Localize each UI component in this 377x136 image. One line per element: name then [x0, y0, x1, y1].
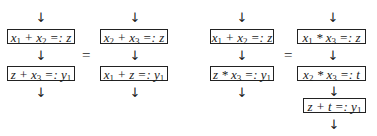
diagram2-right-box-1: x1 * x3 =: z	[297, 29, 366, 44]
diagram1-left-arrow-1: ↓	[35, 49, 47, 62]
diagram2-right-arrow-in: ↓	[327, 11, 339, 24]
diagram1-left-box-1: x1 + x2 =: z	[7, 29, 75, 44]
diagram1-right-box-1: x2 + x3 =: z	[100, 29, 168, 44]
diagram1-right-arrow-out: ↓	[129, 86, 141, 99]
diagram1-left-arrow-in: ↓	[35, 11, 47, 24]
diagram2-left-box-1: x1 + x2 =: z	[210, 29, 274, 44]
diagram2-left-arrow-1: ↓	[236, 49, 248, 62]
diagram2-right-arrow-2: ↓	[328, 85, 340, 98]
diagram1-left-box-2: z + x3 =: y1	[7, 66, 75, 81]
diagram2-right-arrow-out: ↓	[328, 118, 340, 131]
diagram2-left-box-2: z * x3 =: y1	[210, 66, 274, 81]
diagram2-left-arrow-out: ↓	[236, 86, 248, 99]
diagram2-right-box-2: x2 * x3 =: t	[297, 66, 366, 81]
diagram1-right-arrow-1: ↓	[129, 49, 141, 62]
diagram2-equals-sign: =	[284, 48, 292, 63]
diagram2-right-arrow-1: ↓	[327, 49, 339, 62]
diagram1-right-arrow-in: ↓	[129, 11, 141, 24]
diagram1-right-box-2: x1 + z =: y1	[100, 66, 168, 81]
diagram1-equals-sign: =	[82, 48, 90, 63]
diagram2-right-box-3: z + t =: y1	[303, 98, 366, 113]
diagram1-left-arrow-out: ↓	[35, 86, 47, 99]
diagram2-left-arrow-in: ↓	[236, 11, 248, 24]
